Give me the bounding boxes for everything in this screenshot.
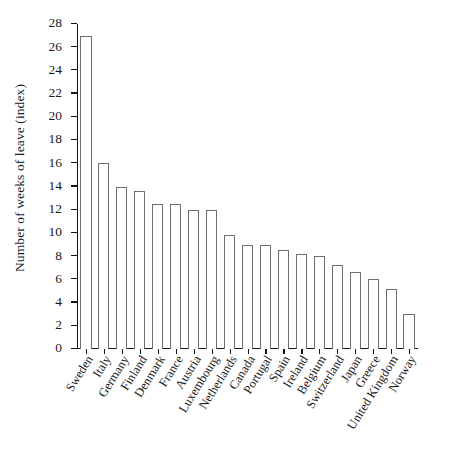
y-tick: 14	[71, 185, 77, 186]
y-tick: 4	[71, 301, 77, 302]
y-tick-label: 2	[55, 317, 62, 333]
bar	[152, 204, 163, 349]
y-tick-label: 4	[55, 294, 62, 310]
y-tick: 6	[71, 278, 77, 279]
bar	[170, 204, 181, 349]
x-axis-labels: SwedenItalyGermanyFinlandDenmarkFranceAu…	[77, 353, 418, 471]
bar-chart: Number of weeks of leave (index) 0246810…	[0, 0, 463, 473]
y-tick: 28	[71, 23, 77, 24]
y-tick-label: 0	[55, 340, 62, 356]
y-tick: 2	[71, 325, 77, 326]
bar	[386, 289, 397, 349]
y-tick-label: 16	[49, 155, 63, 171]
y-tick-label: 20	[49, 108, 63, 124]
y-tick: 16	[71, 162, 77, 163]
y-tick: 24	[71, 69, 77, 70]
y-tick-label: 24	[49, 62, 63, 78]
bar	[98, 163, 109, 349]
y-tick-label: 6	[55, 271, 62, 287]
bar	[134, 191, 145, 349]
bar	[314, 256, 325, 349]
bar	[278, 250, 289, 349]
y-tick-label: 8	[55, 248, 62, 264]
y-tick-label: 12	[49, 201, 63, 217]
y-tick: 18	[71, 139, 77, 140]
bar	[403, 314, 414, 349]
y-tick: 8	[71, 255, 77, 256]
y-tick: 0	[71, 348, 77, 349]
y-tick-label: 28	[49, 15, 63, 31]
bar	[296, 254, 307, 349]
y-tick-label: 26	[49, 39, 63, 55]
y-axis-line	[77, 24, 78, 349]
y-tick: 10	[71, 232, 77, 233]
y-tick-label: 10	[49, 224, 63, 240]
bar	[260, 245, 271, 349]
bar	[224, 235, 235, 349]
y-tick: 12	[71, 209, 77, 210]
y-tick-label: 22	[49, 85, 63, 101]
y-tick: 26	[71, 46, 77, 47]
bar	[116, 187, 127, 350]
bar	[332, 265, 343, 349]
plot-area: 0246810121416182022242628	[77, 24, 418, 349]
y-tick: 22	[71, 92, 77, 93]
y-axis-title-text: Number of weeks of leave (index)	[12, 83, 28, 271]
bar	[206, 210, 217, 349]
y-tick: 20	[71, 116, 77, 117]
bar	[80, 36, 91, 349]
bar	[242, 245, 253, 349]
bar	[350, 272, 361, 349]
y-tick-label: 18	[49, 131, 63, 147]
y-axis-title: Number of weeks of leave (index)	[6, 0, 34, 355]
bar	[368, 279, 379, 349]
y-tick-label: 14	[49, 178, 63, 194]
bar	[188, 210, 199, 349]
